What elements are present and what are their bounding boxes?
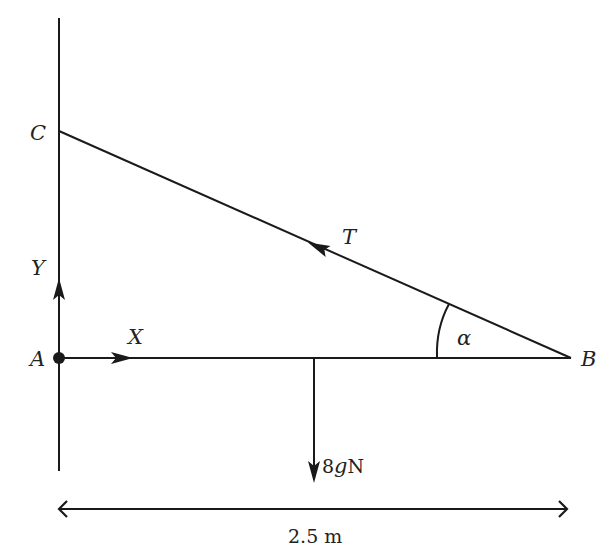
label-t: T — [342, 225, 358, 249]
label-b: B — [580, 347, 596, 371]
label-alpha: α — [457, 326, 471, 350]
label-c: C — [30, 121, 46, 145]
tension-arrow-icon — [306, 237, 331, 257]
force-diagram: C Y A X T α B 8gN 2.5 m — [0, 0, 614, 559]
angle-arc — [437, 304, 449, 357]
label-y: Y — [31, 256, 47, 280]
label-weight: 8gN — [322, 454, 364, 478]
label-x: X — [126, 325, 144, 349]
dimension-label: 2.5 m — [288, 525, 342, 547]
label-a: A — [28, 347, 45, 371]
hinge-point-a — [53, 352, 65, 364]
